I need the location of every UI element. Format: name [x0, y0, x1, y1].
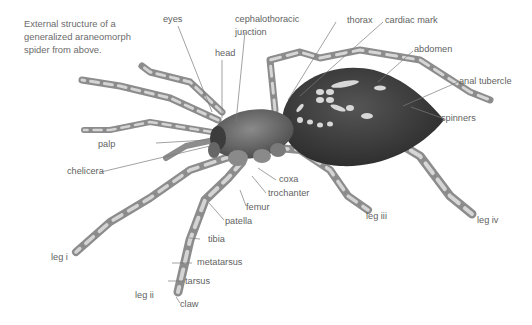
label-spinners: spinners — [441, 113, 476, 124]
figure-caption: External structure of a generalized aran… — [24, 17, 154, 56]
label-tibia: tibia — [208, 234, 225, 245]
label-anal-tubercle: anal tubercle — [459, 76, 512, 87]
label-tarsus: tarsus — [185, 276, 210, 287]
leg-ii — [178, 162, 242, 292]
label-eyes: eyes — [163, 14, 182, 25]
label-leg-ii: leg ii — [135, 290, 154, 301]
label-patella: patella — [225, 216, 252, 227]
label-metatarsus: metatarsus — [197, 257, 242, 268]
leg-left-upper-3 — [84, 122, 212, 132]
leg-left-upper-4 — [166, 140, 214, 158]
label-head: head — [215, 48, 235, 59]
label-leg-i: leg i — [51, 252, 68, 263]
label-leg-iii: leg iii — [366, 211, 387, 222]
label-thorax: thorax — [347, 15, 373, 26]
label-claw: claw — [180, 299, 198, 310]
label-cardiac-mark: cardiac mark — [385, 15, 438, 26]
label-cephalothoracic-junction-2: junction — [235, 27, 267, 38]
label-cephalothoracic-junction-1: cephalothoracic — [235, 14, 299, 25]
label-coxa: coxa — [279, 174, 298, 185]
label-trochanter: trochanter — [268, 188, 309, 199]
leader-lines — [101, 22, 469, 303]
label-abdomen: abdomen — [414, 44, 452, 55]
legs — [76, 50, 490, 292]
label-femur: femur — [246, 202, 270, 213]
label-leg-iv: leg iv — [477, 215, 498, 226]
label-chelicera: chelicera — [67, 166, 104, 177]
label-palp: palp — [98, 139, 115, 150]
